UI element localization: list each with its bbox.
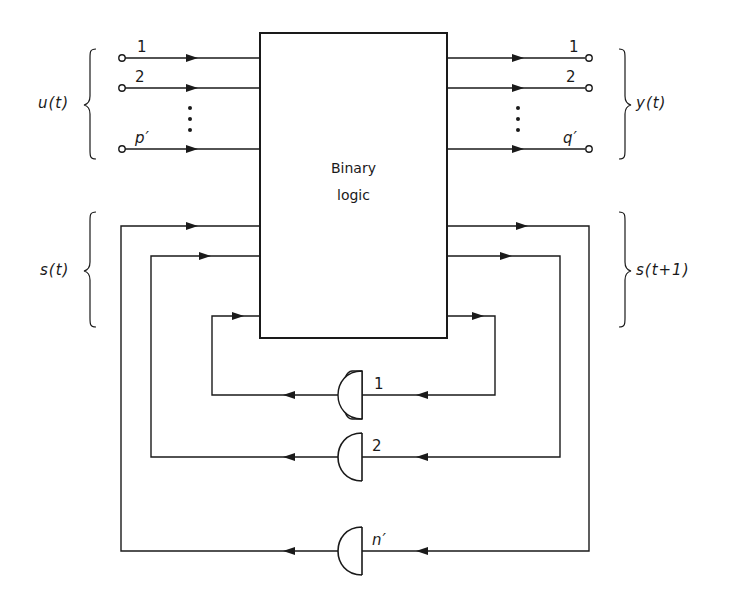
label-y-t: y(t)	[636, 96, 666, 111]
label-s-t-plus-1: s(t+1)	[636, 263, 690, 278]
delay-element-1	[338, 371, 362, 419]
binary-logic-block	[260, 33, 447, 338]
brace-s-t	[84, 212, 96, 327]
diagram-canvas	[0, 0, 729, 604]
delay-label-1: 1	[374, 377, 384, 392]
input-label-1: 1	[137, 40, 147, 55]
block-label-line1: Binary	[260, 160, 447, 176]
label-s-t: s(t)	[40, 263, 69, 278]
delay-element-n	[338, 527, 362, 575]
delay-element-2	[338, 433, 362, 481]
brace-y	[619, 49, 631, 159]
output-label-1: 1	[569, 40, 579, 55]
block-label-line2: logic	[260, 187, 447, 203]
ellipsis-dots	[188, 106, 520, 132]
delay-label-n: n′	[372, 533, 387, 548]
input-label-p: p′	[135, 131, 150, 146]
brace-s-t1	[619, 212, 631, 327]
label-u-t: u(t)	[38, 96, 69, 111]
output-label-q: q′	[563, 131, 578, 146]
brace-u	[84, 49, 96, 159]
input-label-2: 2	[135, 70, 145, 85]
output-label-2: 2	[566, 70, 576, 85]
delay-label-2: 2	[372, 439, 382, 454]
